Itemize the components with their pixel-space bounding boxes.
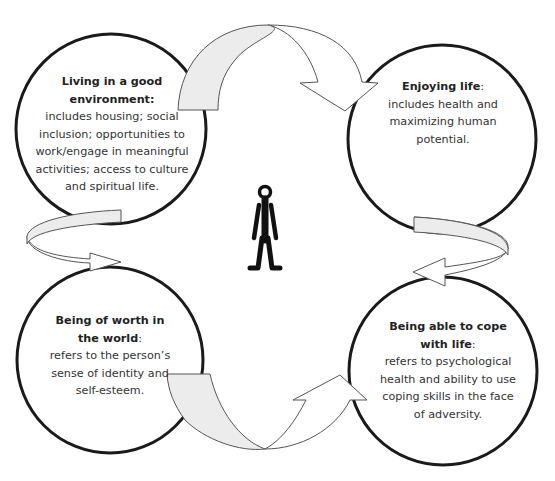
node-environment-title-line-1: Living in a good <box>27 73 197 91</box>
node-environment-body-4: activities; access to culture <box>27 161 197 179</box>
node-enjoying-life: Enjoying life: includes health and maxim… <box>368 78 518 148</box>
node-environment-body-5: and spiritual life. <box>27 178 197 196</box>
person-icon <box>250 187 280 269</box>
node-cope-body-4: of adversity. <box>378 406 518 424</box>
node-environment-title-line-2: environment: <box>27 91 197 109</box>
node-worth-body-1: refers to the person’s <box>40 347 180 365</box>
node-worth-body-2: sense of identity and <box>40 365 180 383</box>
node-environment-body-1: includes housing; social <box>27 108 197 126</box>
node-cope: Being able to cope with life: refers to … <box>378 318 518 423</box>
node-worth-title-line-1: Being of worth in <box>40 312 180 330</box>
arrow-right-icon <box>413 217 508 286</box>
arrow-bottom-icon <box>167 374 367 449</box>
arrow-top-icon <box>178 25 378 111</box>
arrow-left-icon <box>27 210 121 271</box>
node-cope-title-line-2: with life: <box>378 336 518 354</box>
node-worth-body-3: self-esteem. <box>40 382 180 400</box>
node-cope-body-1: refers to psychological <box>378 353 518 371</box>
node-worth-title-line-2: the world: <box>40 330 180 348</box>
node-environment-body-3: work/engage in meaningful <box>27 143 197 161</box>
node-cope-title-line-1: Being able to cope <box>378 318 518 336</box>
node-worth: Being of worth in the world: refers to t… <box>40 312 180 400</box>
node-environment: Living in a good environment: includes h… <box>27 73 197 196</box>
node-enjoying-life-body-3: potential. <box>368 131 518 149</box>
node-enjoying-life-body-1: includes health and <box>368 96 518 114</box>
node-enjoying-life-body-2: maximizing human <box>368 113 518 131</box>
node-environment-body-2: inclusion; opportunities to <box>27 126 197 144</box>
node-cope-body-2: health and ability to use <box>378 371 518 389</box>
node-enjoying-life-title: Enjoying life: <box>368 78 518 96</box>
node-cope-body-3: coping skills in the face <box>378 388 518 406</box>
